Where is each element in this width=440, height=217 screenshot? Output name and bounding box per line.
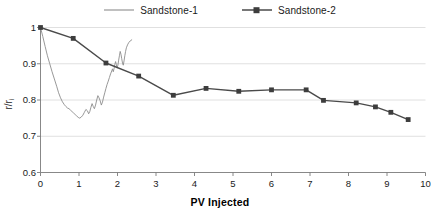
x-axis-tick-label: 6 xyxy=(260,178,284,189)
series-marker-sandstone-2 xyxy=(71,36,76,41)
x-axis-tick-label: 5 xyxy=(221,178,245,189)
chart-plot-area xyxy=(0,0,440,217)
chart-legend: Sandstone-1 Sandstone-2 xyxy=(0,2,440,18)
series-marker-sandstone-2 xyxy=(373,104,378,109)
legend-item-sandstone-1[interactable]: Sandstone-1 xyxy=(104,5,198,16)
x-axis-tick-label: 4 xyxy=(183,178,207,189)
series-marker-sandstone-2 xyxy=(354,101,359,106)
series-line-sandstone-1 xyxy=(41,28,132,119)
legend-item-sandstone-2[interactable]: Sandstone-2 xyxy=(242,5,336,16)
series-marker-sandstone-2 xyxy=(38,25,43,30)
x-axis-tick-label: 2 xyxy=(106,178,130,189)
x-axis-tick-label: 7 xyxy=(298,178,322,189)
legend-label-sandstone-1: Sandstone-1 xyxy=(140,5,198,16)
series-marker-sandstone-2 xyxy=(171,93,176,98)
series-marker-sandstone-2 xyxy=(321,98,326,103)
y-axis-tick-label: 0.8 xyxy=(12,94,36,105)
series-marker-sandstone-2 xyxy=(406,117,411,122)
y-axis-tick-label: 0.6 xyxy=(12,167,36,178)
y-axis-tick-label: 0.7 xyxy=(12,130,36,141)
y-axis-tick-label: 0.9 xyxy=(12,58,36,69)
chart-container: Sandstone-1 Sandstone-2 r/ri PV Injected… xyxy=(0,0,440,217)
y-axis-tick-label: 1 xyxy=(12,22,36,33)
legend-label-sandstone-2: Sandstone-2 xyxy=(278,5,336,16)
legend-swatch-sandstone-1 xyxy=(104,5,134,15)
series-marker-sandstone-2 xyxy=(104,61,109,66)
x-axis-tick-label: 8 xyxy=(337,178,361,189)
series-marker-sandstone-2 xyxy=(204,86,209,91)
x-axis-tick-label: 1 xyxy=(67,178,91,189)
x-axis-tick-label: 0 xyxy=(29,178,53,189)
x-axis-tick-label: 3 xyxy=(144,178,168,189)
legend-swatch-sandstone-2 xyxy=(242,5,272,15)
series-marker-sandstone-2 xyxy=(269,87,274,92)
series-marker-sandstone-2 xyxy=(388,110,393,115)
x-axis-title: PV Injected xyxy=(0,196,440,208)
series-marker-sandstone-2 xyxy=(304,87,309,92)
series-marker-sandstone-2 xyxy=(136,74,141,79)
x-axis-tick-label: 10 xyxy=(414,178,438,189)
series-marker-sandstone-2 xyxy=(236,89,241,94)
x-axis-tick-label: 9 xyxy=(375,178,399,189)
